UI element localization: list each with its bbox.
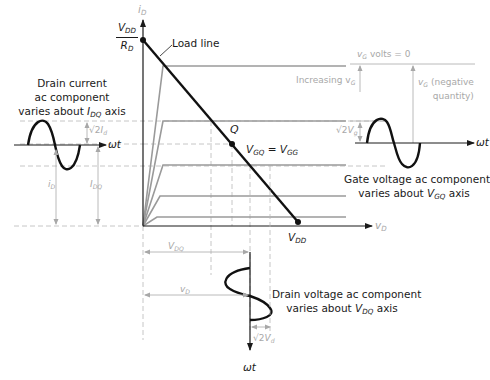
vg-neg-line1: (negative <box>431 77 474 87</box>
dv-l2-post: axis <box>373 302 397 314</box>
dc-l3-post: axis <box>101 105 125 117</box>
axes <box>143 20 372 226</box>
dv-l2-pre: varies about <box>286 302 355 314</box>
eq-sign: = <box>268 143 277 155</box>
vd-axis-sub: D <box>381 224 387 233</box>
gv-l2-post: axis <box>445 187 469 199</box>
gate-voltage-wave <box>355 119 474 167</box>
characteristic-curves <box>143 66 346 226</box>
drain-voltage-caption: Drain voltage ac component varies about … <box>272 287 412 317</box>
dv-omega-t-label: ωt <box>243 362 256 373</box>
dv-amplitude-label: √2Vd <box>253 334 275 344</box>
dc-amplitude-label: √2Id <box>89 126 107 136</box>
frac-num-sub: DD <box>125 26 136 35</box>
dc-l3-sub: DQ <box>90 111 101 120</box>
frac-den-sub: D <box>128 44 134 53</box>
vdd-point <box>295 219 301 225</box>
dc-l3-pre: varies about <box>18 105 87 117</box>
q-label: Q <box>230 124 239 135</box>
dv-vdq-label: VDQ <box>168 242 184 252</box>
dv-caption-line1: Drain voltage ac component <box>272 287 412 301</box>
dv-amp-sub: d <box>271 337 275 344</box>
dc-amp-sqrt: √2 <box>89 125 100 135</box>
dv-vd-label: vD <box>180 285 190 295</box>
gv-amp-sqrt: √2 <box>336 125 347 135</box>
drain-current-caption: Drain current ac component varies about … <box>6 76 138 120</box>
gv-l2-pre: varies about <box>358 187 427 199</box>
vdd-sub: DD <box>295 236 306 245</box>
gv-caption-line2: varies about VGQ axis <box>344 186 484 202</box>
frac-den: R <box>121 39 128 51</box>
id-axis-label: iD <box>138 4 146 17</box>
increasing-vg-label: Increasing vG <box>296 76 355 86</box>
gv-amplitude-label: √2Vg <box>336 126 358 136</box>
dv-amp-sqrt: √2 <box>253 333 264 343</box>
dv-vdq-sub: DQ <box>174 245 184 252</box>
vg-zero-label: vG volts = 0 <box>357 50 410 60</box>
dv-caption-line2: varies about VDQ axis <box>272 301 412 317</box>
dc-idq-sub: DQ <box>93 183 103 190</box>
gv-caption-line1: Gate voltage ac component <box>344 172 484 186</box>
vg-neg-sub: G <box>423 81 428 88</box>
dc-amp-sub: d <box>103 129 107 136</box>
id-axis-sub: D <box>141 8 147 17</box>
gv-l2-sub: GQ <box>434 193 445 202</box>
q-point <box>229 141 235 147</box>
gv-omega-t-label: ωt <box>476 137 489 148</box>
load-line-leader <box>160 45 172 56</box>
drain-current-wave <box>14 121 143 226</box>
vgq-equation: VGQ = VGG <box>246 144 298 157</box>
drain-voltage-wave <box>145 166 271 350</box>
vd-axis-label: vD <box>375 220 387 233</box>
increasing-text: Increasing v <box>296 75 351 85</box>
dc-omega-t-label: ωt <box>108 139 121 150</box>
vgq-sub: GQ <box>253 148 264 157</box>
vdd-over-rd-label: VDD RD <box>116 22 138 52</box>
dc-caption-line2: ac component <box>6 90 138 104</box>
gv-amp-sub: g <box>354 129 358 136</box>
vgg-var: V <box>280 143 287 155</box>
dc-caption-line1: Drain current <box>6 76 138 90</box>
vg-neg-line2: quantity) <box>418 90 474 103</box>
load-line-top-point <box>140 37 146 43</box>
vg-zero-sub: G <box>362 53 367 60</box>
vg-zero-suffix: volts = 0 <box>370 49 411 59</box>
gate-voltage-caption: Gate voltage ac component varies about V… <box>344 172 484 202</box>
vgg-sub: GG <box>287 148 298 157</box>
dv-l2-sub: DQ <box>362 308 373 317</box>
dc-idq-label: IDQ <box>90 180 102 190</box>
increasing-sub: G <box>351 79 356 86</box>
dc-caption-line3: varies about IDQ axis <box>6 104 138 120</box>
dv-vd-sub: D <box>185 288 190 295</box>
dc-id-sub: D <box>51 183 56 190</box>
vg-negative-label: vG (negative quantity) <box>418 76 474 102</box>
load-line-label: Load line <box>172 38 219 49</box>
load-line <box>143 40 298 222</box>
dc-id-label: iD <box>48 180 55 190</box>
vdd-label: VDD <box>288 232 306 245</box>
